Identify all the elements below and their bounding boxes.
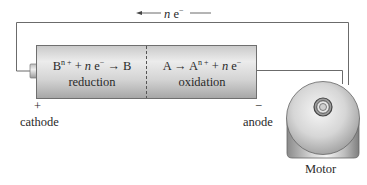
anode-label: anode xyxy=(243,116,273,129)
reduction-label: reduction xyxy=(42,76,142,89)
reduction-equation: Bn + + n e− → B xyxy=(42,59,142,73)
plus-sign: + xyxy=(212,59,219,73)
anode-sign: − xyxy=(255,100,262,113)
cathode-label: cathode xyxy=(20,116,59,129)
product-ion: A xyxy=(189,59,198,73)
electron-count: n xyxy=(222,59,228,73)
electron-flow-label: n e− xyxy=(164,7,183,21)
oxidation-label: oxidation xyxy=(150,76,254,89)
circuit-diagram xyxy=(0,0,367,185)
electron-charge: − xyxy=(100,58,105,67)
ion-charge: n + xyxy=(61,58,72,67)
reactant-ion: B xyxy=(53,59,61,73)
motor-label: Motor xyxy=(305,163,336,176)
motor-disc xyxy=(287,82,360,155)
reactant: A xyxy=(163,59,171,73)
electron-charge: − xyxy=(179,6,184,15)
electron-count: n xyxy=(164,7,170,21)
oxidation-equation: A → An + + n e− xyxy=(150,59,254,73)
cathode-terminal-nub xyxy=(30,64,37,78)
electron-count: n xyxy=(85,59,91,73)
electron-charge: − xyxy=(237,58,242,67)
plus-sign: + xyxy=(75,59,82,73)
reaction-arrow-icon: → xyxy=(107,59,120,73)
ion-charge: n + xyxy=(198,58,209,67)
reaction-arrow-icon: → xyxy=(174,59,187,73)
cathode-sign: + xyxy=(34,100,41,113)
product: B xyxy=(123,59,131,73)
motor-shaft-icon xyxy=(320,104,327,111)
motor xyxy=(287,82,360,159)
